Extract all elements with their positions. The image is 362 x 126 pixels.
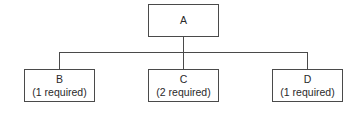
node-c: C (2 required) [148, 69, 219, 102]
node-a-label: A [180, 14, 187, 27]
node-b-label: B [56, 73, 63, 86]
node-a: A [148, 4, 219, 37]
edge-a-to-c [183, 52, 184, 69]
node-c-label: C [180, 73, 188, 86]
node-b: B (1 required) [24, 69, 95, 102]
node-b-note: (1 required) [32, 86, 86, 99]
node-d: D (1 required) [272, 69, 343, 102]
edge-a-trunk [183, 37, 184, 53]
edge-a-to-b [59, 52, 60, 69]
edge-a-to-d [307, 52, 308, 69]
node-d-label: D [304, 73, 312, 86]
node-c-note: (2 required) [156, 86, 210, 99]
node-d-note: (1 required) [280, 86, 334, 99]
